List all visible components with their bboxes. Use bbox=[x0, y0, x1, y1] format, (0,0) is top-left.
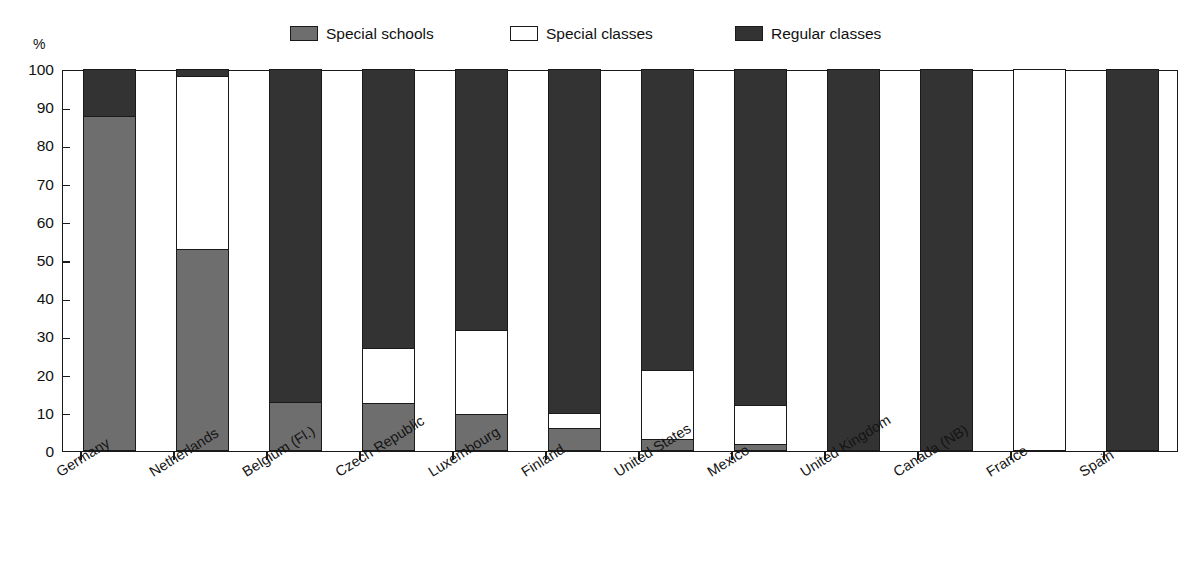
segment-special-schools[interactable] bbox=[83, 117, 136, 451]
y-axis-tick-mark bbox=[63, 338, 70, 339]
segment-regular-classes[interactable] bbox=[362, 69, 415, 349]
bar-spain[interactable] bbox=[1106, 69, 1159, 451]
segment-regular-classes[interactable] bbox=[176, 69, 229, 77]
legend-item: Special classes bbox=[510, 26, 653, 41]
y-axis-tick-label: 50 bbox=[0, 253, 54, 269]
segment-regular-classes[interactable] bbox=[1106, 69, 1159, 451]
plot-area bbox=[62, 70, 1178, 452]
y-axis-tick-mark bbox=[63, 147, 70, 148]
segment-special-classes[interactable] bbox=[1013, 69, 1066, 451]
y-axis-tick-mark bbox=[63, 109, 70, 110]
y-axis-tick-label: 40 bbox=[0, 291, 54, 307]
y-axis-tick-label: 60 bbox=[0, 215, 54, 231]
y-axis-tick-mark bbox=[63, 185, 70, 186]
y-axis-tick-label: 0 bbox=[0, 444, 54, 460]
bar-luxembourg[interactable] bbox=[455, 69, 508, 451]
segment-regular-classes[interactable] bbox=[83, 69, 136, 117]
y-axis-tick-label: 70 bbox=[0, 177, 54, 193]
bar-mexico[interactable] bbox=[734, 69, 787, 451]
bar-netherlands[interactable] bbox=[176, 69, 229, 451]
y-axis-tick-mark bbox=[63, 261, 70, 262]
legend-label: Special schools bbox=[326, 26, 434, 41]
plot-inner bbox=[63, 71, 1177, 451]
bar-belgium-fl[interactable] bbox=[269, 69, 322, 451]
segment-regular-classes[interactable] bbox=[920, 69, 973, 451]
bar-france[interactable] bbox=[1013, 69, 1066, 451]
legend-swatch-icon bbox=[735, 26, 763, 41]
segment-regular-classes[interactable] bbox=[734, 69, 787, 406]
segment-regular-classes[interactable] bbox=[548, 69, 601, 414]
y-axis-tick-mark bbox=[63, 376, 70, 377]
segment-regular-classes[interactable] bbox=[455, 69, 508, 331]
segment-regular-classes[interactable] bbox=[827, 69, 880, 451]
y-axis-tick-label: 10 bbox=[0, 406, 54, 422]
legend-label: Regular classes bbox=[771, 26, 881, 41]
y-axis-tick-label: 100 bbox=[0, 62, 54, 78]
legend-swatch-icon bbox=[290, 26, 318, 41]
legend-item: Regular classes bbox=[735, 26, 881, 41]
legend-item: Special schools bbox=[290, 26, 434, 41]
bar-czech-republic[interactable] bbox=[362, 69, 415, 451]
chart-legend: Special schoolsSpecial classesRegular cl… bbox=[0, 26, 1185, 52]
segment-special-classes[interactable] bbox=[362, 349, 415, 404]
y-axis-tick-label: 90 bbox=[0, 100, 54, 116]
bar-finland[interactable] bbox=[548, 69, 601, 451]
segment-regular-classes[interactable] bbox=[269, 69, 322, 403]
y-axis-unit-label: % bbox=[33, 36, 45, 52]
bar-canada-nb[interactable] bbox=[920, 69, 973, 451]
y-axis-tick-label: 20 bbox=[0, 368, 54, 384]
bar-united-states[interactable] bbox=[641, 69, 694, 451]
segment-special-schools[interactable] bbox=[176, 250, 229, 451]
bar-united-kingdom[interactable] bbox=[827, 69, 880, 451]
legend-swatch-icon bbox=[510, 26, 538, 41]
x-axis-category-label: Spain bbox=[1077, 447, 1116, 479]
segment-special-classes[interactable] bbox=[176, 77, 229, 251]
legend-label: Special classes bbox=[546, 26, 653, 41]
segment-special-classes[interactable] bbox=[548, 414, 601, 429]
segment-special-classes[interactable] bbox=[734, 406, 787, 445]
segment-special-classes[interactable] bbox=[455, 331, 508, 415]
y-axis-tick-mark bbox=[63, 223, 70, 224]
y-axis-tick-label: 30 bbox=[0, 330, 54, 346]
y-axis-tick-label: 80 bbox=[0, 139, 54, 155]
segment-regular-classes[interactable] bbox=[641, 69, 694, 371]
bar-germany[interactable] bbox=[83, 69, 136, 451]
y-axis-tick-mark bbox=[63, 300, 70, 301]
y-axis-tick-mark bbox=[63, 414, 70, 415]
